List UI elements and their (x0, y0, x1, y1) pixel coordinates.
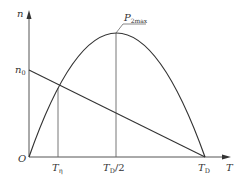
y-axis-label: n (17, 8, 23, 19)
x-axis-label: T (226, 162, 234, 173)
x-axis-arrow-icon (222, 155, 231, 160)
t-eta-label: Tη (52, 162, 63, 175)
td-label: TD (198, 162, 210, 175)
output-power-parabola (29, 33, 205, 157)
p2max-label: P2max (123, 12, 148, 24)
n0-label: n0 (15, 64, 26, 77)
mechanical-characteristic-line (29, 70, 205, 157)
y-axis-arrow-icon (27, 10, 32, 19)
origin-label: O (18, 153, 26, 164)
p2max-leader-line (116, 24, 123, 33)
td-half-label: TD/2 (103, 162, 125, 175)
power-speed-diagram: n T O n0 Tη TD/2 TD P2max (0, 0, 244, 180)
